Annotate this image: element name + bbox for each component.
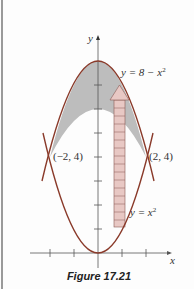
point-left-label: (−2, 4) xyxy=(53,150,83,163)
figure-diagram: y x y = 8 − x2 y = x2 (−2, 4) (2, 4) xyxy=(0,0,194,289)
lower-curve-label: y = x2 xyxy=(129,206,157,218)
upper-curve-label: y = 8 − x2 xyxy=(120,66,166,78)
y-axis-label: y xyxy=(87,32,93,44)
y-axis-arrow-icon xyxy=(96,35,100,40)
x-axis-label: x xyxy=(169,254,175,266)
point-right-label: (2, 4) xyxy=(149,150,173,163)
figure-page: y x y = 8 − x2 y = x2 (−2, 4) (2, 4) Fig… xyxy=(0,0,194,289)
figure-caption: Figure 17.21 xyxy=(0,270,194,282)
